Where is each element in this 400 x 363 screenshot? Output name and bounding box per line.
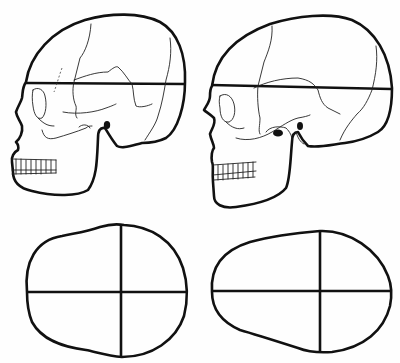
- skull-left-mastoid: [79, 125, 90, 128]
- diagram-canvas: [0, 0, 400, 363]
- skull-right-teeth: [213, 162, 256, 180]
- skull-left-teeth: [12, 159, 56, 174]
- skull-right-mandibular-fossa: [273, 129, 283, 136]
- skull-comparison-figure: [0, 0, 400, 363]
- skull-left-frontal-suture-dashed: [54, 68, 62, 92]
- skull-left-zygomatic-arch: [63, 104, 116, 113]
- skull-right-length-line: [211, 85, 391, 89]
- head-outline-right: [212, 231, 392, 352]
- skull-left-lambdoid-suture: [145, 38, 171, 140]
- skull-left-ear-canal: [104, 121, 110, 129]
- skull-right-ear-canal: [297, 122, 303, 130]
- skull-right: [204, 16, 392, 208]
- skull-left: [12, 15, 185, 195]
- skull-left-orbit: [32, 88, 46, 118]
- skull-right-nasal: [226, 122, 244, 129]
- skull-right-orbit: [219, 94, 235, 122]
- skull-left-squamosal-suture: [74, 67, 152, 107]
- skull-left-coronal-suture: [73, 24, 91, 118]
- skull-left-outline: [12, 15, 185, 195]
- skull-right-lambdoid-suture: [340, 46, 377, 140]
- skull-left-length-line: [26, 83, 185, 84]
- skull-left-nasal: [38, 118, 54, 126]
- skull-right-squamosal-suture: [254, 78, 340, 114]
- head-outline-left: [27, 224, 187, 357]
- skull-left-mandible-ramus: [42, 126, 92, 139]
- skull-right-coronal-suture: [258, 26, 273, 134]
